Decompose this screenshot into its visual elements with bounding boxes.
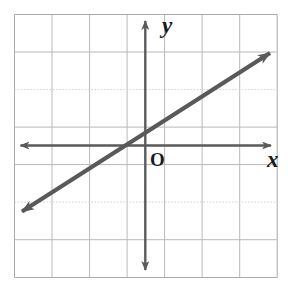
y-axis-label: y [162,14,172,37]
origin-label: O [150,150,165,169]
x-axis-label: x [267,148,279,171]
coordinate-plane-figure: y x O [0,0,291,290]
graph-canvas [0,0,291,290]
